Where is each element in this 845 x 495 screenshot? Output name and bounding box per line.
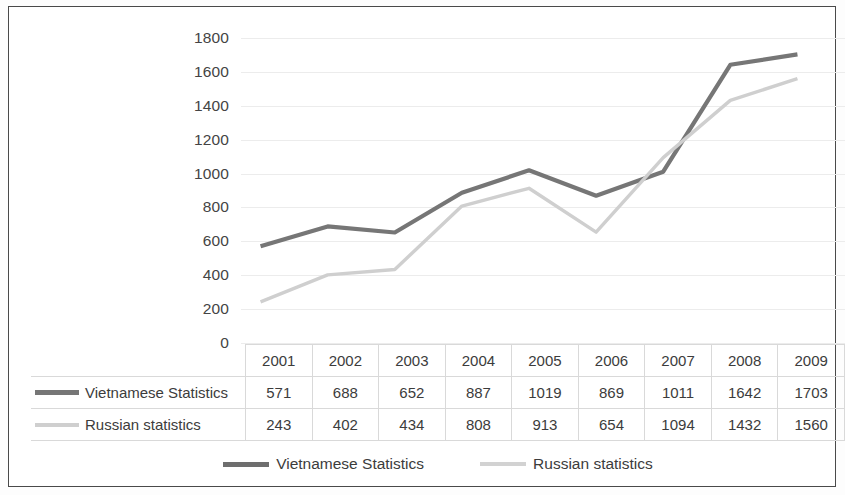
table-cell: 688 [312, 377, 379, 409]
y-axis-tick-label: 1600 [194, 63, 229, 81]
table-cell: 652 [379, 377, 446, 409]
table-cell: 913 [512, 409, 579, 441]
table-row-header: Russian statistics [31, 409, 246, 441]
y-axis-tick-label: 600 [203, 232, 229, 250]
y-axis-tick-label: 1200 [194, 131, 229, 149]
table-year-header: 2009 [778, 345, 845, 377]
table-cell: 571 [246, 377, 313, 409]
table-cell: 1560 [778, 409, 845, 441]
legend-item: Russian statistics [480, 455, 653, 473]
series-line [261, 54, 798, 246]
table-year-header: 2001 [246, 345, 313, 377]
table-cell: 1011 [645, 377, 712, 409]
table-year-header: 2004 [445, 345, 512, 377]
table-corner-cell [31, 345, 246, 377]
y-axis-tick-label: 200 [203, 300, 229, 318]
series-swatch-icon [35, 390, 79, 395]
table-cell: 654 [578, 409, 645, 441]
row-header-inner: Russian statistics [35, 416, 245, 433]
table-row: Vietnamese Statistics5716886528871019869… [31, 377, 845, 409]
y-axis-tick-label: 1400 [194, 97, 229, 115]
series-line [261, 79, 798, 302]
table-year-header: 2005 [512, 345, 579, 377]
legend-swatch-icon [480, 462, 526, 466]
table-year-header: 2008 [711, 345, 778, 377]
data-table: 200120022003200420052006200720082009Viet… [31, 344, 845, 441]
table-header-row: 200120022003200420052006200720082009 [31, 345, 845, 377]
table-cell: 808 [445, 409, 512, 441]
y-axis-tick-label: 1800 [194, 29, 229, 47]
series-lines [241, 38, 845, 343]
chart-legend: Vietnamese StatisticsRussian statistics [31, 455, 845, 473]
chart-figure: 180016001400120010008006004002000 200120… [0, 0, 845, 495]
plot-area [241, 38, 845, 343]
y-axis: 180016001400120010008006004002000 [179, 38, 235, 343]
table-cell: 1642 [711, 377, 778, 409]
legend-swatch-icon [223, 462, 269, 467]
table-cell: 402 [312, 409, 379, 441]
table-year-header: 2007 [645, 345, 712, 377]
y-axis-tick-label: 400 [203, 266, 229, 284]
table-row: Russian statistics2434024348089136541094… [31, 409, 845, 441]
table-cell: 434 [379, 409, 446, 441]
table-cell: 1432 [711, 409, 778, 441]
table-cell: 1019 [512, 377, 579, 409]
table-row-header: Vietnamese Statistics [31, 377, 246, 409]
legend-label: Russian statistics [533, 455, 653, 473]
y-axis-tick-label: 1000 [194, 165, 229, 183]
table-cell: 887 [445, 377, 512, 409]
table-year-header: 2002 [312, 345, 379, 377]
table-year-header: 2003 [379, 345, 446, 377]
table-cell: 243 [246, 409, 313, 441]
series-swatch-icon [35, 423, 79, 427]
legend-item: Vietnamese Statistics [223, 455, 424, 473]
y-axis-tick-label: 800 [203, 198, 229, 216]
series-name-label: Russian statistics [85, 416, 201, 433]
row-header-inner: Vietnamese Statistics [35, 384, 245, 401]
table-cell: 1094 [645, 409, 712, 441]
figure-frame: 180016001400120010008006004002000 200120… [8, 6, 836, 487]
table-year-header: 2006 [578, 345, 645, 377]
table-cell: 869 [578, 377, 645, 409]
series-name-label: Vietnamese Statistics [85, 384, 228, 401]
legend-label: Vietnamese Statistics [276, 455, 424, 473]
table-cell: 1703 [778, 377, 845, 409]
